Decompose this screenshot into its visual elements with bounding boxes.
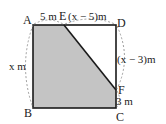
geometry-diagram: A E D B C F 5 m (x − 5)m (x − 3)m 3 m x … (0, 0, 166, 124)
measure-ed: (x − 5)m (68, 10, 107, 23)
point-label-a: A (23, 13, 32, 27)
point-label-e: E (59, 9, 66, 23)
measure-fc: 3 m (116, 95, 133, 107)
measure-df: (x − 3)m (117, 53, 156, 66)
point-label-b: B (24, 106, 32, 120)
measure-ab: x m (9, 60, 26, 72)
point-label-c: C (116, 110, 124, 124)
point-label-d: D (117, 16, 126, 30)
brace-ab-dashed (26, 25, 34, 108)
measure-ae: 5 m (40, 10, 57, 22)
